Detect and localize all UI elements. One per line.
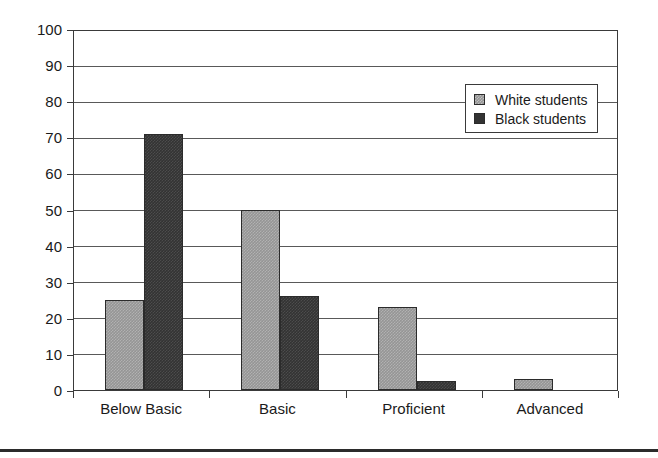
bar (280, 296, 319, 390)
y-tick-label: 0 (0, 383, 62, 398)
bar-chart-figure: 1009080706050403020100 Below BasicBasicP… (0, 0, 658, 458)
y-tick-mark (67, 247, 74, 248)
y-tick-label: 60 (0, 166, 62, 181)
chart-legend: White students Black students (465, 84, 598, 133)
y-tick-label: 50 (0, 203, 62, 218)
x-tick-mark (346, 391, 347, 398)
bottom-divider (0, 449, 658, 452)
x-tick-label: Below Basic (73, 400, 209, 418)
bar (105, 300, 144, 390)
y-tick-label: 10 (0, 347, 62, 362)
x-tick-label: Advanced (482, 400, 618, 418)
y-tick-mark (67, 174, 74, 175)
x-tick-label: Basic (209, 400, 345, 418)
x-tick-mark (73, 391, 74, 398)
legend-item-black-students: Black students (474, 109, 597, 128)
legend-item-white-students: White students (474, 90, 597, 109)
bar (144, 134, 183, 390)
y-tick-mark (67, 319, 74, 320)
y-tick-mark (67, 138, 74, 139)
y-tick-label: 30 (0, 275, 62, 290)
legend-swatch-black-students (474, 113, 485, 124)
legend-label-black-students: Black students (495, 112, 586, 126)
y-tick-mark (67, 102, 74, 103)
y-tick-label: 80 (0, 94, 62, 109)
y-tick-label: 20 (0, 311, 62, 326)
y-axis: 1009080706050403020100 (0, 0, 66, 458)
bar (241, 210, 280, 391)
y-tick-label: 100 (0, 22, 62, 37)
x-tick-mark (482, 391, 483, 398)
legend-swatch-white-students (474, 94, 485, 105)
bar (378, 307, 417, 390)
y-tick-label: 40 (0, 239, 62, 254)
bar (514, 379, 553, 390)
y-tick-mark (67, 355, 74, 356)
y-tick-mark (67, 66, 74, 67)
y-tick-mark (67, 30, 74, 31)
x-tick-mark (618, 391, 619, 398)
gridline (74, 66, 617, 67)
y-tick-label: 90 (0, 58, 62, 73)
bar (417, 381, 456, 390)
y-tick-label: 70 (0, 130, 62, 145)
y-tick-mark (67, 391, 74, 392)
x-tick-mark (209, 391, 210, 398)
y-tick-mark (67, 283, 74, 284)
legend-label-white-students: White students (495, 93, 588, 107)
y-tick-mark (67, 211, 74, 212)
x-tick-label: Proficient (346, 400, 482, 418)
